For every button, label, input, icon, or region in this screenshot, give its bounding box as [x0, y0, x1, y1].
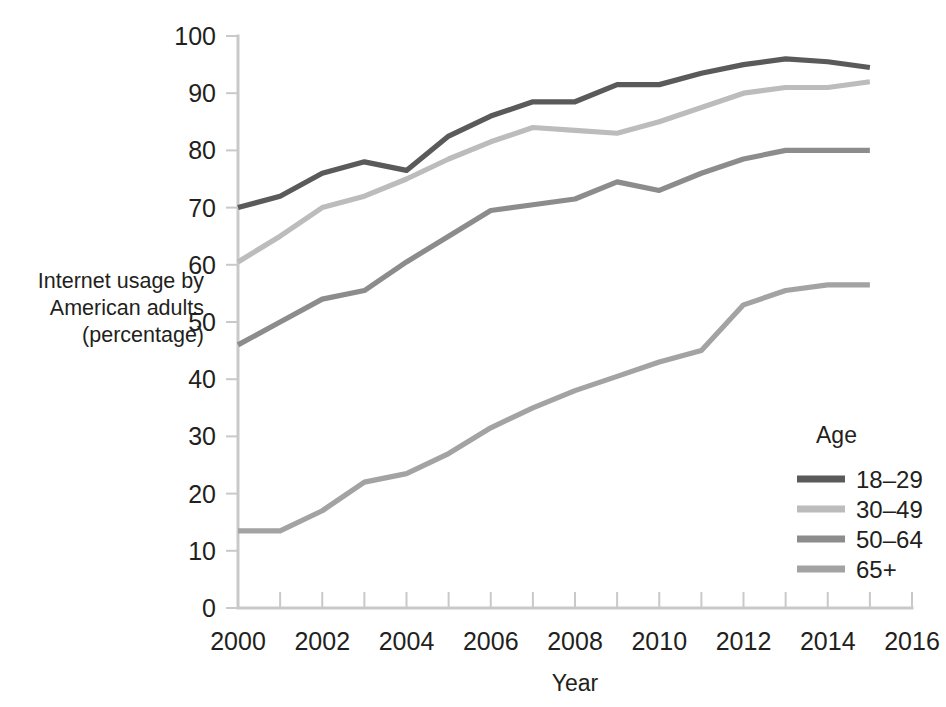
x-tick-label-2002: 2002 [294, 627, 350, 655]
x-tick-label-2010: 2010 [631, 627, 687, 655]
series-group [238, 59, 870, 531]
x-tick-label-2006: 2006 [463, 627, 519, 655]
y-tick-label-0: 0 [202, 594, 216, 622]
figure-container: 0102030405060708090100 20002002200420062… [0, 0, 946, 707]
x-tick-labels: 200020022004200620082010201220142016 [210, 627, 940, 655]
x-tick-label-2008: 2008 [547, 627, 603, 655]
series-line-18-29 [238, 59, 870, 208]
y-tick-label-20: 20 [188, 480, 216, 508]
legend-label-65+: 65+ [856, 556, 897, 583]
x-tick-label-2014: 2014 [800, 627, 856, 655]
legend-label-30-49: 30–49 [856, 496, 923, 523]
y-tick-label-100: 100 [174, 22, 216, 50]
axes-group [226, 36, 912, 608]
series-line-65+ [238, 285, 870, 531]
x-tick-label-2012: 2012 [716, 627, 772, 655]
y-axis-label: Internet usage byAmerican adults(percent… [38, 269, 204, 347]
y-axis-label-line-3: (percentage) [82, 323, 204, 347]
y-axis-label-line-1: Internet usage by [38, 269, 204, 293]
legend: Age18–2930–4950–6465+ [797, 422, 923, 583]
x-tick-label-2004: 2004 [379, 627, 435, 655]
y-tick-label-30: 30 [188, 422, 216, 450]
figure-caption-clipped [0, 693, 946, 707]
line-chart: 0102030405060708090100 20002002200420062… [0, 0, 946, 707]
x-tick-label-2016: 2016 [884, 627, 940, 655]
y-axis-label-line-2: American adults [50, 296, 204, 320]
y-tick-label-90: 90 [188, 79, 216, 107]
y-tick-label-80: 80 [188, 136, 216, 164]
x-tick-label-2000: 2000 [210, 627, 266, 655]
y-tick-label-70: 70 [188, 194, 216, 222]
legend-title: Age [816, 422, 857, 448]
series-line-50-64 [238, 150, 870, 344]
y-tick-label-10: 10 [188, 537, 216, 565]
legend-label-18-29: 18–29 [856, 466, 923, 493]
legend-label-50-64: 50–64 [856, 526, 923, 553]
y-tick-label-40: 40 [188, 365, 216, 393]
y-tick-labels: 0102030405060708090100 [174, 22, 216, 622]
axis-spine [238, 36, 912, 608]
